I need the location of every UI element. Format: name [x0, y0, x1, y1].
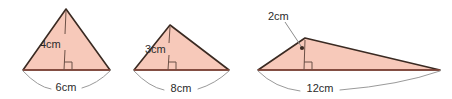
triangle-2-group: 3cm 8cm	[134, 25, 229, 94]
triangle-1-base-arc-left	[23, 71, 51, 89]
triangle-1-base-arc-right	[82, 71, 110, 88]
triangle-3-base-arc-right	[340, 71, 440, 90]
triangle-3-group: 2cm 12cm	[258, 10, 440, 94]
triangle-3-base-arc-left	[258, 71, 300, 91]
triangle-3-shape	[258, 38, 440, 70]
triangle-2-base-arc-left	[134, 71, 164, 90]
triangle-2-base-arc-right	[198, 71, 229, 89]
triangle-figures-sheet: 4cm 6cm 3cm 8cm	[0, 0, 452, 99]
triangle-1-shape	[23, 9, 110, 70]
triangle-1-group: 4cm 6cm	[23, 9, 110, 93]
triangle-3-base-label: 12cm	[307, 82, 334, 94]
triangle-1-height-label: 4cm	[40, 38, 61, 50]
triangles-diagram: 4cm 6cm 3cm 8cm	[0, 0, 452, 99]
triangle-3-height-leader-arrowhead	[300, 46, 304, 50]
triangle-2-base-label: 8cm	[171, 82, 192, 94]
triangle-2-height-label: 3cm	[145, 43, 166, 55]
triangle-3-height-label: 2cm	[268, 10, 289, 22]
triangle-3-height-leader-line	[285, 22, 301, 46]
triangle-1-base-label: 6cm	[56, 81, 77, 93]
